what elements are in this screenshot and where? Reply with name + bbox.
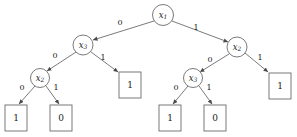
edge-n1-to-n3 [172,21,228,42]
terminal-leaf-0: 0 [50,105,72,131]
decision-node-x3: x3 [184,69,203,88]
leaf-value: 1 [277,81,283,91]
edge-n2-to-n4 [47,52,76,71]
terminal-leaf-1: 1 [5,105,27,131]
terminal-leaf-1: 1 [159,105,181,131]
edge-label-e1: 0 [117,18,122,27]
decision-node-x3: x3 [73,35,93,55]
edge-label-e10: 1 [206,83,211,92]
edge-label-e9: 0 [173,83,178,92]
edge-label-e3: 0 [52,51,57,60]
edge-label-e6: 1 [257,53,262,62]
decision-node-x1: x1 [153,5,174,26]
edge-n1-to-n2 [93,21,154,40]
node-var-subscript: 2 [39,76,44,83]
edge-label-e4: 1 [100,53,105,62]
leaf-value: 0 [58,113,64,123]
edge-label-e2: 1 [193,23,198,32]
leaf-value: 1 [127,80,133,90]
leaf-value: 1 [13,113,19,123]
bdd-diagram-canvas: 101101 x1x3x2x2x3 0101010101 [0,0,297,137]
bdd-figure: 101101 x1x3x2x2x3 0101010101 [0,0,297,137]
decision-node-x2: x2 [31,69,50,88]
node-var-subscript: 3 [83,43,87,50]
decision-node-x2: x2 [227,37,247,57]
edge-label-e5: 0 [207,55,212,64]
edge-label-e7: 0 [19,83,24,92]
terminal-leaf-1: 1 [119,72,141,98]
leaf-value: 1 [167,113,173,123]
edge-n3-to-n5 [200,54,229,72]
node-var-subscript: 1 [163,13,167,20]
leaf-value: 0 [212,113,218,123]
node-var-subscript: 3 [193,76,197,83]
node-var-subscript: 2 [236,45,241,52]
terminal-leaf-1: 1 [269,73,291,99]
terminal-leaf-0: 0 [204,105,226,131]
edge-label-e8: 1 [53,83,58,92]
